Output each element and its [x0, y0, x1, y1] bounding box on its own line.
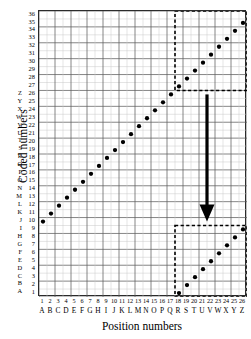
y-tick-number: 20: [23, 138, 35, 145]
y-tick-letter: A: [12, 288, 22, 295]
y-tick-letter: Q: [12, 161, 22, 168]
y-tick-number: 30: [23, 58, 35, 65]
y-tick-letter: L: [12, 201, 22, 208]
y-tick-number: 36: [23, 11, 35, 18]
y-tick-number: 34: [23, 26, 35, 33]
y-tick-number: 23: [23, 114, 35, 121]
y-tick-number: 13: [23, 193, 35, 200]
y-tick-letter: E: [12, 257, 22, 264]
y-tick-letter: Y: [12, 98, 22, 105]
y-tick-letter: U: [12, 130, 22, 137]
y-tick-letter: W: [12, 114, 22, 121]
y-tick-number: 21: [23, 130, 35, 137]
y-tick-letter: V: [12, 122, 22, 129]
y-tick-number: 26: [23, 90, 35, 97]
y-tick-number: 25: [23, 98, 35, 105]
y-tick-number: 15: [23, 177, 35, 184]
x-tick-number: 26: [236, 298, 248, 304]
y-tick-number: 1: [23, 289, 35, 296]
y-tick-number: 2: [23, 281, 35, 288]
y-tick-letter: H: [12, 233, 22, 240]
x-axis-title: Position numbers: [38, 320, 246, 332]
y-tick-letter: G: [12, 241, 22, 248]
plot-area: [38, 10, 246, 296]
y-tick-number: 19: [23, 146, 35, 153]
y-tick-letter: S: [12, 145, 22, 152]
y-tick-number: 28: [23, 74, 35, 81]
y-tick-letter: N: [12, 185, 22, 192]
y-tick-number: 9: [23, 225, 35, 232]
y-tick-number: 27: [23, 82, 35, 89]
y-tick-letter: I: [12, 225, 22, 232]
y-tick-letter: X: [12, 106, 22, 113]
y-tick-number: 12: [23, 201, 35, 208]
y-tick-number: 29: [23, 66, 35, 73]
y-tick-number: 35: [23, 19, 35, 26]
y-tick-letter: J: [12, 217, 22, 224]
y-tick-number: 22: [23, 122, 35, 129]
y-tick-number: 33: [23, 34, 35, 41]
y-tick-number: 7: [23, 241, 35, 248]
y-tick-letter: P: [12, 169, 22, 176]
y-tick-letter: T: [12, 137, 22, 144]
y-tick-letter: D: [12, 265, 22, 272]
y-tick-letter: K: [12, 209, 22, 216]
y-tick-number: 8: [23, 233, 35, 240]
y-tick-letter: Z: [12, 90, 22, 97]
y-tick-number: 10: [23, 217, 35, 224]
y-tick-number: 14: [23, 185, 35, 192]
y-tick-number: 4: [23, 265, 35, 272]
y-tick-number: 11: [23, 209, 35, 216]
y-tick-number: 3: [23, 273, 35, 280]
y-tick-number: 32: [23, 42, 35, 49]
y-tick-number: 16: [23, 169, 35, 176]
y-tick-number: 31: [23, 50, 35, 57]
y-tick-number: 18: [23, 154, 35, 161]
chart-figure: Coded numbers Position numbers 1A2B3C4D5…: [0, 0, 251, 339]
y-tick-number: 5: [23, 257, 35, 264]
y-tick-letter: O: [12, 177, 22, 184]
x-tick-letter: Z: [236, 307, 248, 314]
y-tick-letter: R: [12, 153, 22, 160]
y-tick-letter: C: [12, 273, 22, 280]
y-tick-letter: B: [12, 280, 22, 287]
y-tick-number: 17: [23, 162, 35, 169]
y-tick-letter: M: [12, 193, 22, 200]
y-tick-number: 24: [23, 106, 35, 113]
grid-lines: [39, 11, 247, 297]
y-tick-number: 6: [23, 249, 35, 256]
y-tick-letter: F: [12, 249, 22, 256]
